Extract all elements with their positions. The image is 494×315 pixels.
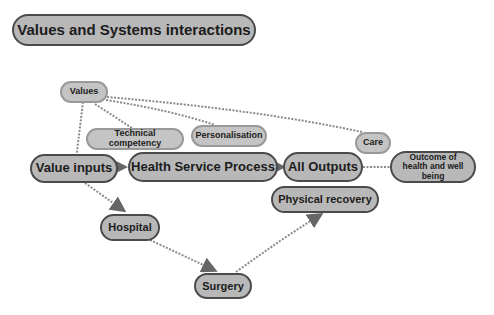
hospital-to-surgery-arrow <box>150 240 214 270</box>
node-hospital: Hospital <box>100 214 160 241</box>
node-care: Care <box>355 132 391 154</box>
node-health-service-process: Health Service Process <box>128 152 278 182</box>
node-technical-competency: Technical competency <box>86 128 184 150</box>
node-value-inputs: Value inputs <box>30 154 118 183</box>
node-outcome: Outcome of health and well being <box>390 151 476 183</box>
node-values: Values <box>60 81 108 103</box>
diagram-title: Values and Systems interactions <box>12 14 256 46</box>
node-all-outputs: All Outputs <box>283 152 363 182</box>
node-personalisation: Personalisation <box>191 125 267 147</box>
values-to-technical-line <box>95 104 132 128</box>
node-surgery: Surgery <box>194 273 252 299</box>
value-inputs-to-hospital-arrow <box>85 183 123 210</box>
node-physical-recovery: Physical recovery <box>271 186 379 213</box>
values-to-value-inputs-line <box>76 102 83 160</box>
surgery-to-recovery-arrow <box>236 215 320 272</box>
